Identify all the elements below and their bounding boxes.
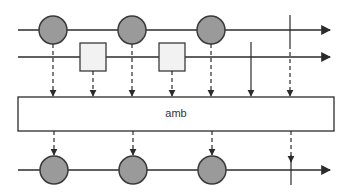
marble-circle xyxy=(197,16,225,44)
marble-circle xyxy=(118,16,146,44)
marble-circle xyxy=(119,156,147,184)
marble-diagram: amb xyxy=(0,0,352,196)
marble-square xyxy=(159,43,185,71)
operator-label: amb xyxy=(165,107,186,119)
input-stream-2 xyxy=(18,42,330,72)
marble-square xyxy=(80,43,106,71)
diagram-canvas: amb xyxy=(0,0,352,196)
operator-box: amb xyxy=(18,97,334,131)
output-stream xyxy=(18,155,330,185)
output-stream xyxy=(18,155,330,185)
input-stream-1 xyxy=(18,15,330,45)
marble-circle xyxy=(39,16,67,44)
marble-circle xyxy=(40,156,68,184)
marble-circle xyxy=(198,156,226,184)
input-streams xyxy=(18,15,330,72)
